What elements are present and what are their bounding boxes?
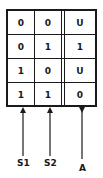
- arrow-s1-icon: [20, 107, 26, 156]
- arrows: [0, 0, 103, 178]
- label-a: A: [79, 163, 86, 173]
- label-s2: S2: [44, 158, 57, 168]
- label-s1: S1: [17, 158, 30, 168]
- arrow-s2-icon: [47, 107, 53, 156]
- arrow-a-icon: [79, 107, 85, 159]
